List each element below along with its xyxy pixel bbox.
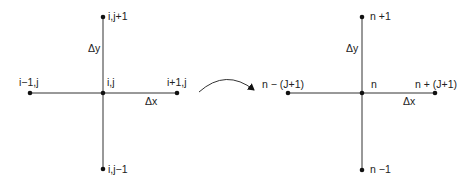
node-center [360, 91, 365, 96]
label-bottom: i,j−1 [108, 163, 128, 175]
node-top [101, 15, 106, 20]
right-stencil: n +1 n −1 n − (J+1) n + (J+1) n Δy Δx [262, 10, 457, 175]
label-dy: Δy [88, 42, 101, 54]
node-center [101, 91, 106, 96]
label-center: i,j [107, 76, 115, 88]
label-bottom: n −1 [370, 163, 391, 175]
left-stencil: i,j+1 i,j−1 i−1,j i+1,j i,j Δy Δx [19, 10, 187, 175]
stencil-mapping-diagram: i,j+1 i,j−1 i−1,j i+1,j i,j Δy Δx n +1 n… [0, 0, 476, 183]
label-center: n [371, 78, 377, 90]
label-top: i,j+1 [108, 10, 128, 22]
label-left: i−1,j [19, 76, 39, 88]
node-right [175, 91, 180, 96]
node-left [286, 91, 291, 96]
node-top [360, 15, 365, 20]
diagram-svg: i,j+1 i,j−1 i−1,j i+1,j i,j Δy Δx n +1 n… [0, 0, 476, 183]
label-right: n + (J+1) [415, 78, 457, 90]
curved-arrow-icon [199, 79, 254, 92]
node-bottom [360, 168, 365, 173]
node-bottom [101, 167, 106, 172]
label-dy: Δy [346, 42, 359, 54]
label-top: n +1 [370, 10, 391, 22]
node-left [28, 91, 33, 96]
label-right: i+1,j [167, 76, 187, 88]
node-right [433, 91, 438, 96]
label-left: n − (J+1) [262, 78, 304, 90]
label-dx: Δx [145, 95, 158, 107]
label-dx: Δx [403, 95, 416, 107]
